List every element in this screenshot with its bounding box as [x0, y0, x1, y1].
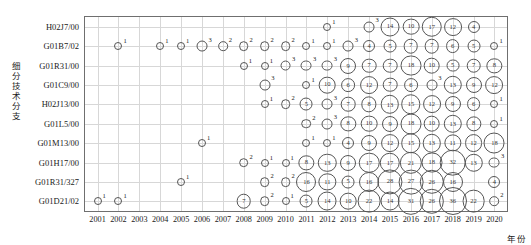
- bubble-value-label: 16: [303, 179, 310, 186]
- bubble-value-label: 7: [347, 101, 350, 108]
- bubble-marker: 13: [423, 134, 441, 152]
- bubble-value-label: 18: [429, 159, 436, 166]
- x-axis-tick-label: 2019: [465, 215, 481, 224]
- bubble-marker: 17: [422, 16, 442, 36]
- bubble-marker: 6: [341, 78, 355, 92]
- bubble-marker: 6: [404, 78, 418, 92]
- bubble-marker: [156, 42, 164, 50]
- bubble-value-label: 3: [355, 35, 358, 42]
- bubble-value-label: 6: [347, 82, 350, 89]
- bubble-value-label: 2: [312, 113, 315, 120]
- bubble-value-label: 10: [345, 198, 352, 205]
- y-axis-tick-label: H02J13/00: [42, 99, 79, 109]
- bubble-value-label: 10: [429, 120, 436, 127]
- bubble-marker: 7: [466, 58, 481, 73]
- bubble-value-label: 11: [450, 140, 456, 147]
- bubble-marker: [490, 196, 500, 206]
- bubble-value-label: 9: [347, 62, 350, 69]
- bubble-value-label: 8: [347, 120, 350, 127]
- bubble-marker: [282, 159, 290, 167]
- bubble-marker: 5: [300, 98, 313, 111]
- bubble-marker: [322, 99, 333, 110]
- bubble-value-label: 1: [499, 114, 502, 121]
- bubble-marker: [240, 62, 248, 70]
- bubble-value-label: 3: [334, 113, 337, 120]
- bubble-marker: [302, 119, 312, 129]
- bubble-value-label: 1: [165, 37, 168, 44]
- bubble-value-label: 1: [332, 17, 335, 24]
- bubble-value-label: 1: [270, 56, 273, 63]
- bubble-value-label: 8: [305, 159, 308, 166]
- bubble-marker: 12: [423, 95, 441, 113]
- bubble-marker: [260, 196, 270, 206]
- bubble-marker: 10: [361, 115, 378, 132]
- bubble-marker: 17: [359, 152, 379, 172]
- bubble-marker: 12: [486, 76, 504, 94]
- bubble-value-label: 4: [367, 43, 370, 50]
- bubble-value-label: 18: [408, 62, 415, 69]
- bubble-marker: 12: [360, 76, 378, 94]
- bubble-value-label: 3: [334, 93, 337, 100]
- bubble-value-label: 2: [500, 191, 503, 198]
- bubble-value-label: 17: [366, 159, 373, 166]
- x-axis-tick-label: 2003: [131, 215, 147, 224]
- bubble-marker: 9: [445, 96, 461, 112]
- bubble-marker: [302, 81, 310, 89]
- x-axis-tick-label: 2002: [110, 215, 126, 224]
- bubble-marker: 12: [381, 134, 399, 152]
- bubble-marker: [490, 100, 498, 108]
- bubble-marker: [322, 60, 333, 71]
- bubble-marker: [261, 100, 269, 108]
- bubble-marker: 8: [341, 116, 356, 131]
- bubble-value-label: 1: [499, 37, 502, 44]
- bubble-value-label: 2: [250, 36, 253, 43]
- bubble-value-label: 1: [291, 153, 294, 160]
- bubble-marker: 9: [340, 58, 356, 74]
- bubble-value-label: 2: [270, 191, 273, 198]
- bubble-value-label: 12: [387, 140, 394, 147]
- bubble-value-label: 22: [470, 198, 477, 205]
- bubble-marker: 5: [467, 40, 480, 53]
- bubble-value-label: 13: [449, 82, 456, 89]
- bubble-marker: [239, 41, 249, 51]
- bubble-value-label: 32: [449, 159, 456, 166]
- bubble-value-label: 12: [429, 101, 436, 108]
- bubble-value-label: 2: [270, 36, 273, 43]
- bubble-marker: 8: [361, 97, 376, 112]
- bubble-marker: 13: [443, 76, 461, 94]
- x-axis-tick-label: 2009: [256, 215, 272, 224]
- bubble-marker: 7: [383, 58, 398, 73]
- bubble-value-label: 1: [499, 95, 502, 102]
- bubble-marker: 14: [318, 192, 337, 211]
- bubble-value-label: 1: [249, 56, 252, 63]
- bubble-marker: [197, 41, 208, 52]
- bubble-marker: 7: [236, 194, 251, 209]
- x-axis-tick-label: 2013: [340, 215, 356, 224]
- bubble-marker: [323, 42, 331, 50]
- bubble-value-label: 3: [376, 16, 379, 23]
- y-axis-tick-label: G01B7/02: [44, 41, 79, 51]
- bubble-value-label: 5: [451, 62, 454, 69]
- bubble-marker: [282, 197, 290, 205]
- bubble-value-label: 14: [387, 23, 394, 30]
- bubble-value-label: 9: [472, 82, 475, 89]
- y-axis-title: 细分技术分支: [6, 62, 20, 122]
- bubble-value-label: 26: [429, 198, 436, 205]
- bubble-value-label: 36: [449, 198, 456, 205]
- bubble-marker: 13: [464, 153, 482, 171]
- bubble-value-label: 17: [429, 23, 436, 30]
- bubble-value-label: 7: [430, 43, 433, 50]
- bubble-value-label: 22: [366, 198, 373, 205]
- bubble-marker: [490, 120, 498, 128]
- bubble-marker: 6: [467, 97, 481, 111]
- bubble-marker: [281, 99, 291, 109]
- bubble-marker: 9: [466, 77, 482, 93]
- bubble-value-label: 28: [387, 179, 394, 186]
- bubble-value-label: 3: [271, 74, 274, 81]
- bubble-value-label: 5: [388, 43, 391, 50]
- bubble-value-label: 1: [270, 153, 273, 160]
- bubble-marker: 22: [462, 190, 485, 213]
- bubble-value-label: 2: [250, 152, 253, 159]
- bubble-marker: [260, 41, 270, 51]
- bubble-marker: 12: [465, 134, 483, 152]
